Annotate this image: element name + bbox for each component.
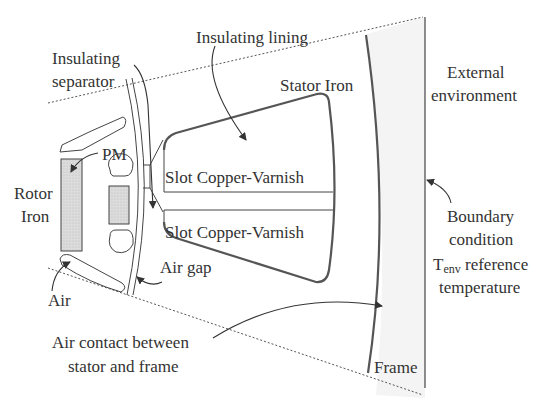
label-boundary-sub: env	[443, 262, 460, 276]
label-air: Air	[48, 291, 71, 310]
label-rotor-iron-1: Rotor	[14, 184, 53, 203]
air-leader	[52, 262, 70, 291]
label-insulating-separator-1: Insulating	[52, 49, 120, 68]
label-pm: PM	[102, 145, 127, 164]
air-gap-leader	[137, 277, 162, 284]
label-insulating-lining: Insulating lining	[196, 28, 308, 47]
label-external-env-2: environment	[431, 86, 517, 105]
label-slot-lower: Slot Copper-Varnish	[165, 223, 304, 242]
label-boundary-3: Tenv reference	[433, 255, 528, 276]
label-frame: Frame	[374, 358, 417, 377]
label-external-env-1: External	[447, 63, 505, 82]
air-pocket-bottom	[109, 230, 133, 253]
machine-cross-section-diagram: Insulating lining Insulating separator S…	[0, 0, 549, 407]
boundary-leader	[427, 180, 451, 203]
pm-magnet-secondary	[109, 186, 129, 224]
label-air-gap: Air gap	[160, 258, 211, 277]
label-air-contact-1: Air contact between	[52, 333, 189, 352]
slot-outline	[164, 94, 335, 282]
frame-region	[367, 17, 425, 398]
label-boundary-1: Boundary	[447, 207, 515, 226]
insulating-lining-leader	[212, 46, 246, 140]
label-boundary-2: condition	[449, 230, 514, 249]
label-boundary-4: temperature	[439, 278, 520, 297]
label-insulating-separator-2: separator	[52, 72, 115, 91]
label-stator-iron: Stator Iron	[280, 76, 354, 95]
flux-barrier-bottom	[60, 255, 125, 293]
label-air-contact-2: stator and frame	[68, 357, 178, 376]
label-slot-upper: Slot Copper-Varnish	[165, 168, 304, 187]
pm-magnet-main	[61, 159, 82, 251]
label-rotor-iron-2: Iron	[21, 207, 50, 226]
